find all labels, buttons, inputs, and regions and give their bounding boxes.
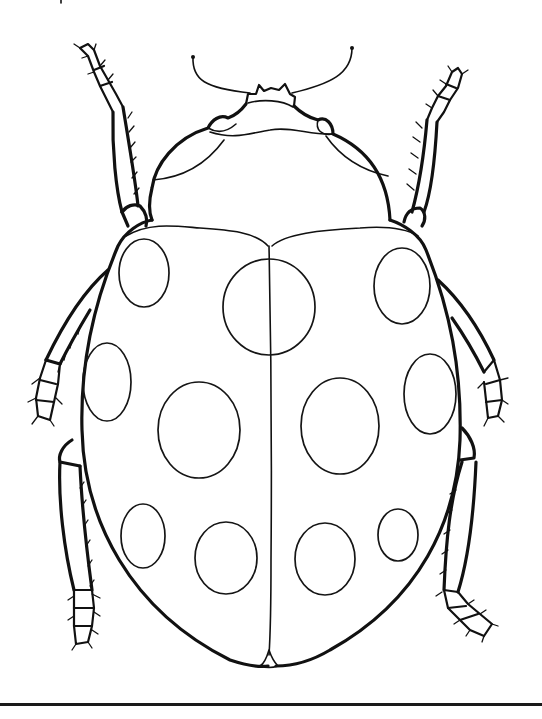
elytra <box>82 220 460 668</box>
spot <box>378 509 418 561</box>
leg-front-right <box>404 66 468 226</box>
spot <box>404 354 456 434</box>
head <box>246 84 295 107</box>
spot <box>158 382 240 478</box>
leg-middle-right <box>438 280 508 460</box>
page-divider-line <box>0 703 542 706</box>
pronotum <box>149 104 390 220</box>
spot <box>295 523 355 595</box>
spot <box>301 378 379 474</box>
spot <box>83 343 131 421</box>
spot <box>121 504 165 568</box>
spot <box>374 248 430 324</box>
leg-hind-right <box>436 462 498 642</box>
leg-front-left <box>74 44 147 226</box>
spot <box>119 239 169 307</box>
ladybug-drawing <box>0 0 542 719</box>
antennae <box>191 46 354 93</box>
leg-hind-left <box>60 440 101 650</box>
spot <box>195 522 257 594</box>
